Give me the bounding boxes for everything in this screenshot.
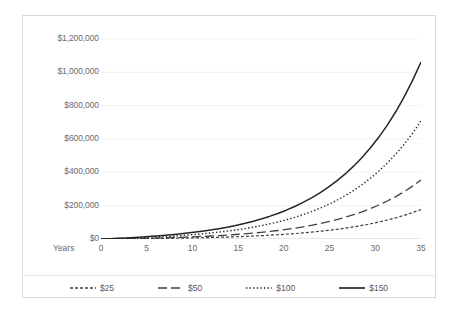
x-axis-tick-label: 5 xyxy=(144,243,149,253)
series-line xyxy=(101,180,421,239)
plot-area xyxy=(101,39,421,239)
y-axis-tick-label: $1,200,000 xyxy=(27,34,99,43)
legend-swatch-line-icon xyxy=(246,284,272,292)
x-axis-tick-label: 0 xyxy=(99,243,104,253)
chart-plot-wrapper: $0$200,000$400,000$600,000$800,000$1,000… xyxy=(23,16,435,297)
series-line xyxy=(101,62,421,239)
legend-item-label: $50 xyxy=(188,283,202,293)
legend-item-label: $150 xyxy=(369,283,388,293)
legend-item[interactable]: $100 xyxy=(246,283,295,293)
y-axis-labels: $0$200,000$400,000$600,000$800,000$1,000… xyxy=(25,16,99,297)
x-axis-labels: 05101520253035 xyxy=(101,240,421,258)
y-axis-tick-label: $200,000 xyxy=(27,201,99,210)
legend-divider xyxy=(24,275,434,276)
series-line xyxy=(101,121,421,239)
x-axis-title: Years xyxy=(53,243,74,253)
legend-item[interactable]: $150 xyxy=(339,283,388,293)
chart-frame: $0$200,000$400,000$600,000$800,000$1,000… xyxy=(22,15,436,298)
chart-legend: $25$50$100$150 xyxy=(23,280,435,296)
x-axis-tick-label: 15 xyxy=(233,243,242,253)
y-axis-tick-label: $800,000 xyxy=(27,101,99,110)
legend-swatch-line-icon xyxy=(158,284,184,292)
x-axis-tick-label: 30 xyxy=(371,243,380,253)
legend-swatch-line-icon xyxy=(339,284,365,292)
y-axis-tick-label: $1,000,000 xyxy=(27,67,99,76)
legend-item[interactable]: $50 xyxy=(158,283,202,293)
legend-swatch-line-icon xyxy=(70,284,96,292)
y-axis-tick-label: $600,000 xyxy=(27,134,99,143)
x-axis-tick-label: 25 xyxy=(325,243,334,253)
series-lines xyxy=(101,39,421,239)
series-line xyxy=(101,209,421,239)
x-axis-tick-label: 35 xyxy=(416,243,425,253)
legend-item-label: $25 xyxy=(100,283,114,293)
x-axis-tick-label: 20 xyxy=(279,243,288,253)
legend-item-label: $100 xyxy=(276,283,295,293)
x-axis-tick-label: 10 xyxy=(188,243,197,253)
y-axis-tick-label: $400,000 xyxy=(27,167,99,176)
legend-item[interactable]: $25 xyxy=(70,283,114,293)
y-axis-tick-label: $0 xyxy=(27,234,99,243)
